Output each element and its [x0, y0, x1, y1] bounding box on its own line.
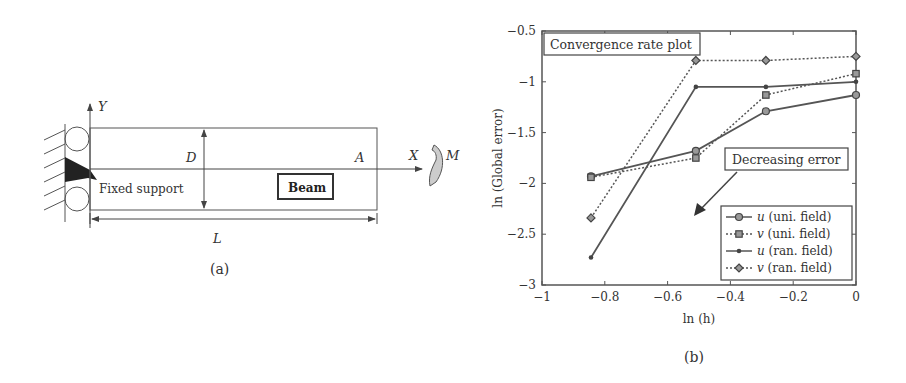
length-label: L [212, 231, 222, 246]
x-tick-label: −0.6 [653, 290, 682, 304]
depth-label: D [185, 150, 197, 165]
y-tick-label: −2 [518, 176, 536, 190]
x-tick-label: −0.2 [779, 290, 808, 304]
moment-label: M [445, 148, 460, 163]
x-tick-label: −0.8 [590, 290, 619, 304]
y-tick-label: −1 [518, 75, 536, 89]
y-axis-label: Y [98, 99, 108, 114]
moment-icon [429, 145, 442, 186]
x-tick-label: −1 [533, 290, 551, 304]
y-tick-label: −2.5 [507, 227, 536, 241]
figure-canvas: Y X M D A Fixed support Beam L (a) −1−0.… [0, 0, 906, 383]
point-a-label: A [354, 150, 364, 165]
panel-a-caption: (a) [210, 261, 229, 277]
svg-text:Convergence rate plot: Convergence rate plot [550, 37, 692, 52]
wall-hatch [44, 124, 65, 222]
roller-top [65, 127, 89, 151]
svg-text:v (uni. field): v (uni. field) [757, 227, 831, 241]
x-tick-label: 0 [852, 290, 860, 304]
svg-text:v (ran. field): v (ran. field) [757, 261, 832, 275]
svg-text:u (uni. field): u (uni. field) [757, 210, 831, 224]
chart-title-box: Convergence rate plot [544, 33, 700, 55]
panel-a-beam-diagram: Y X M D A Fixed support Beam L (a) [44, 99, 460, 277]
x-axis-title: ln (h) [683, 312, 715, 326]
y-tick-label: −1.5 [507, 126, 536, 140]
x-axis-label: X [408, 148, 419, 163]
svg-text:Decreasing error: Decreasing error [732, 152, 841, 167]
chart-legend: u (uni. field)v (uni. field)u (ran. fiel… [721, 206, 852, 280]
y-tick-label: −3 [518, 278, 536, 292]
svg-text:u (ran. field): u (ran. field) [757, 244, 833, 258]
panel-b-caption: (b) [684, 349, 704, 365]
panel-b-convergence-chart: −1−0.8−0.6−0.4−0.20−3−2.5−2−1.5−1−0.5ln … [491, 24, 860, 326]
y-axis-title: ln (Global error) [491, 108, 505, 207]
x-tick-label: −0.4 [716, 290, 746, 304]
roller-bottom [65, 187, 89, 211]
y-tick-label: −0.5 [507, 24, 536, 38]
fixed-support-label: Fixed support [99, 182, 184, 196]
beam-label: Beam [288, 181, 327, 195]
